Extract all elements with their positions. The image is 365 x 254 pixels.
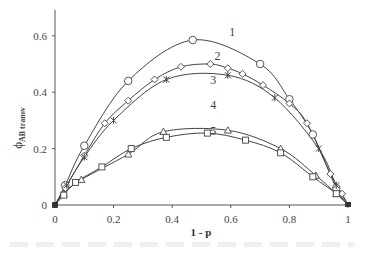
square-marker bbox=[310, 174, 316, 180]
star-marker bbox=[272, 94, 278, 101]
curve-label-1: 1 bbox=[229, 25, 235, 39]
square-marker bbox=[333, 191, 339, 197]
markers bbox=[53, 36, 351, 207]
circle-marker bbox=[256, 60, 264, 68]
square-marker bbox=[73, 179, 79, 185]
diamond-marker bbox=[239, 70, 246, 77]
curve-3 bbox=[55, 73, 348, 205]
curve-labels: 12345 bbox=[210, 25, 235, 138]
square-marker bbox=[242, 137, 248, 143]
diamond-marker bbox=[224, 65, 231, 72]
curve-2 bbox=[55, 64, 348, 205]
circle-marker bbox=[189, 36, 197, 44]
y-axis-label-sub: AB transv bbox=[18, 107, 27, 142]
star-marker bbox=[111, 117, 117, 124]
x-tick-label: 0.8 bbox=[283, 213, 297, 225]
curve-label-5: 5 bbox=[210, 124, 216, 138]
star-marker bbox=[316, 145, 322, 152]
origin-marker bbox=[53, 203, 58, 208]
curve-label-2: 2 bbox=[215, 49, 221, 63]
end-marker bbox=[346, 202, 351, 207]
svg-text:ϕAB transv: ϕAB transv bbox=[10, 107, 27, 149]
x-tick-label: 0 bbox=[52, 213, 58, 225]
square-marker bbox=[61, 192, 67, 198]
y-tick-label: 0.2 bbox=[33, 143, 47, 155]
x-tick-label: 0.4 bbox=[165, 213, 179, 225]
star-marker bbox=[163, 76, 169, 83]
x-tick-label: 1 bbox=[345, 213, 351, 225]
x-tick-label: 0.6 bbox=[224, 213, 238, 225]
square-marker bbox=[278, 150, 284, 156]
square-marker bbox=[163, 134, 169, 140]
diamond-marker bbox=[207, 61, 214, 68]
y-axis-label: ϕAB transv bbox=[10, 107, 27, 149]
square-marker bbox=[128, 146, 134, 152]
y-tick-label: 0 bbox=[42, 199, 48, 211]
square-marker bbox=[99, 164, 105, 170]
circle-marker bbox=[124, 77, 132, 85]
circle-marker bbox=[81, 142, 89, 150]
x-tick-label: 0.2 bbox=[107, 213, 121, 225]
x-axis-label: 1 - p bbox=[191, 226, 212, 238]
diamond-marker bbox=[177, 63, 184, 70]
chart: 00.20.40.600.20.40.60.81 12345 1 - p ϕAB… bbox=[0, 0, 365, 254]
curve-label-3: 3 bbox=[210, 73, 216, 87]
figure-caption-blurred bbox=[10, 242, 355, 247]
y-tick-label: 0.6 bbox=[33, 30, 47, 42]
y-tick-label: 0.4 bbox=[33, 86, 47, 98]
circle-marker bbox=[309, 131, 317, 139]
diamond-marker bbox=[151, 76, 158, 83]
curve-label-4: 4 bbox=[210, 98, 216, 112]
